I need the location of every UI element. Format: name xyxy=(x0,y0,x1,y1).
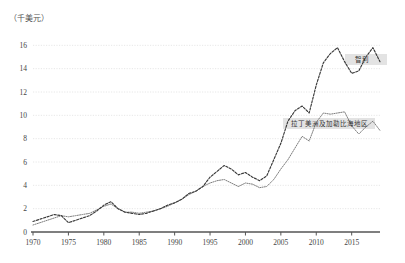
y-axis-tick-labels: 0246810121416 xyxy=(20,41,28,237)
svg-text:2005: 2005 xyxy=(273,238,288,247)
svg-text:1990: 1990 xyxy=(167,238,182,247)
label-highlight-bands xyxy=(283,54,387,129)
svg-text:4: 4 xyxy=(23,181,27,190)
svg-text:1995: 1995 xyxy=(203,238,218,247)
x-axis-tick-labels: 1970197519801985199019952000200520102015 xyxy=(26,238,360,247)
svg-text:2010: 2010 xyxy=(309,238,324,247)
svg-text:1975: 1975 xyxy=(61,238,76,247)
svg-text:10: 10 xyxy=(20,111,28,120)
line-chart: 0246810121416 19701975198019851990199520… xyxy=(0,0,405,263)
svg-text:8: 8 xyxy=(23,134,27,143)
svg-text:2000: 2000 xyxy=(238,238,253,247)
svg-text:2: 2 xyxy=(23,204,27,213)
svg-text:16: 16 xyxy=(20,41,28,50)
series-label-lac: 拉丁美洲及加勒比海地区 xyxy=(291,119,368,128)
svg-text:2015: 2015 xyxy=(344,238,359,247)
svg-text:0: 0 xyxy=(23,228,27,237)
svg-text:6: 6 xyxy=(23,158,27,167)
series-line-chile xyxy=(33,48,380,223)
svg-text:14: 14 xyxy=(20,64,28,73)
svg-text:1980: 1980 xyxy=(96,238,111,247)
chart-container: （千美元） 0246810121416 19701975198019851990… xyxy=(0,0,405,263)
series-label-chile: 智利 xyxy=(355,55,369,64)
svg-text:12: 12 xyxy=(20,88,28,97)
svg-text:1970: 1970 xyxy=(26,238,41,247)
svg-text:1985: 1985 xyxy=(132,238,147,247)
